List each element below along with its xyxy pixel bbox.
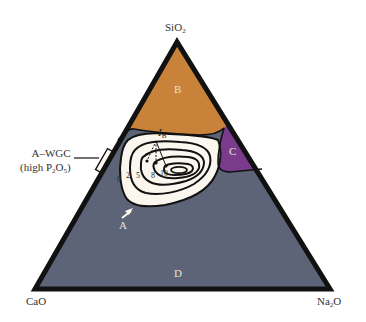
region-a-label: A (119, 220, 127, 231)
ib-label: IB (158, 127, 166, 140)
contour-label-5: 5 (136, 172, 140, 180)
contour-label-2: 2 (126, 172, 130, 180)
vertex-sio2-label: SiO2 (165, 22, 186, 35)
vertex-cao-label: CaO (26, 296, 46, 307)
region-b-label: B (174, 84, 181, 95)
contour-label-8: 8 (151, 172, 155, 180)
region-d-label: D (174, 268, 182, 279)
region-c-label: C (229, 146, 236, 157)
awgc-sublabel: (high P2O5) (20, 162, 71, 175)
contour-label-10: 10 (160, 170, 168, 178)
vertex-na2o-label: Na2O (317, 296, 341, 309)
contour-label-0: 0 (117, 176, 121, 184)
awgc-label: A–WGC (26, 148, 76, 159)
